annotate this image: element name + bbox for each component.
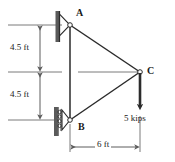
dimension-label-upper: 4.5 ft xyxy=(10,43,29,52)
joint-b xyxy=(68,118,73,123)
dimension-label-lower: 4.5 ft xyxy=(10,90,29,99)
joint-label-c: C xyxy=(147,66,154,76)
support-walls xyxy=(54,11,60,136)
wall-top xyxy=(56,11,60,42)
extension-lines xyxy=(8,25,138,120)
joint-label-a: A xyxy=(76,8,83,18)
truss-diagram: A B C 4.5 ft 4.5 ft 6 ft 5 kips xyxy=(0,0,175,162)
diagram-canvas xyxy=(0,0,175,162)
load-label-5kips: 5 kips xyxy=(124,114,146,123)
member-a-c xyxy=(70,25,140,72)
joint-label-b: B xyxy=(78,122,85,132)
dimension-label-span: 6 ft xyxy=(95,140,111,149)
joint-a xyxy=(68,23,73,28)
wall-bottom xyxy=(54,107,58,136)
